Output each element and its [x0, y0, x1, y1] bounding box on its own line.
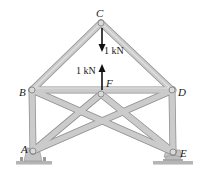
truss-diagram: 1 kN 1 kN C B D F A E	[0, 0, 203, 183]
joint-label-d: D	[177, 86, 186, 98]
joint-label-a: A	[20, 143, 28, 155]
member-de	[172, 90, 173, 152]
arrow-up-icon	[99, 64, 106, 72]
pin-a	[30, 148, 36, 154]
ground-left	[16, 161, 52, 165]
joint-label-e: E	[179, 147, 187, 159]
pin-f	[98, 91, 104, 97]
load-label-c: 1 kN	[104, 45, 124, 56]
joint-label-b: B	[19, 86, 26, 98]
pin-b	[29, 87, 35, 93]
member-ab	[32, 90, 33, 151]
ground-right	[153, 161, 193, 165]
load-label-f: 1 kN	[76, 65, 96, 76]
joint-label-c: C	[96, 7, 104, 19]
pin-c	[98, 20, 104, 26]
load-arrow-f	[99, 64, 106, 90]
pin-d	[169, 87, 175, 93]
joint-label-f: F	[105, 77, 113, 89]
pin-e	[170, 149, 176, 155]
